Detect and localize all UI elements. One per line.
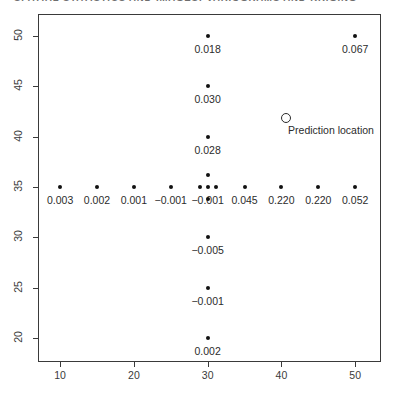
data-point-label: 0.067 <box>328 43 382 55</box>
y-axis-tick-label: 30 <box>12 226 24 246</box>
scatter-plot-figure: 202530354045501020304050 0.0180.0670.030… <box>0 0 401 408</box>
x-axis-tick-label: 50 <box>340 369 370 381</box>
data-point <box>206 197 210 201</box>
y-axis-tick <box>33 237 38 238</box>
data-point <box>206 135 210 139</box>
y-axis-tick-label: 45 <box>12 75 24 95</box>
y-axis-tick <box>33 338 38 339</box>
x-axis-tick-label: 30 <box>193 369 223 381</box>
data-point-label: 0.028 <box>181 144 235 156</box>
x-axis-tick <box>355 362 356 367</box>
data-point-label: 0.052 <box>328 194 382 206</box>
prediction-location-label: Prediction location <box>288 124 374 136</box>
data-point <box>206 286 210 290</box>
y-axis-tick <box>33 187 38 188</box>
data-point <box>206 185 210 189</box>
x-axis-tick <box>208 362 209 367</box>
y-axis-tick-label: 35 <box>12 176 24 196</box>
y-axis-tick <box>33 86 38 87</box>
y-axis-tick-label: 20 <box>12 327 24 347</box>
data-point-label: 0.002 <box>181 345 235 357</box>
data-point-label: −0.005 <box>181 244 235 256</box>
y-axis-tick <box>33 137 38 138</box>
x-axis-tick <box>60 362 61 367</box>
data-point <box>95 185 99 189</box>
y-axis-tick-label: 50 <box>12 25 24 45</box>
x-axis-tick-label: 10 <box>45 369 75 381</box>
data-point <box>206 34 210 38</box>
data-point <box>169 185 173 189</box>
data-point-label: −0.001 <box>181 295 235 307</box>
data-point <box>243 185 247 189</box>
x-axis-tick <box>281 362 282 367</box>
data-point <box>198 185 202 189</box>
x-axis-tick-label: 40 <box>266 369 296 381</box>
data-point <box>206 336 210 340</box>
y-axis-tick <box>33 288 38 289</box>
x-axis-tick-label: 20 <box>119 369 149 381</box>
data-point <box>206 235 210 239</box>
x-axis-tick <box>134 362 135 367</box>
data-point <box>214 185 218 189</box>
data-point <box>132 185 136 189</box>
data-point <box>206 173 210 177</box>
y-axis-tick-label: 25 <box>12 277 24 297</box>
prediction-location-marker <box>281 113 291 123</box>
y-axis-tick-label: 40 <box>12 126 24 146</box>
data-point-label: 0.030 <box>181 93 235 105</box>
y-axis-tick <box>33 36 38 37</box>
data-point-label: 0.018 <box>181 43 235 55</box>
